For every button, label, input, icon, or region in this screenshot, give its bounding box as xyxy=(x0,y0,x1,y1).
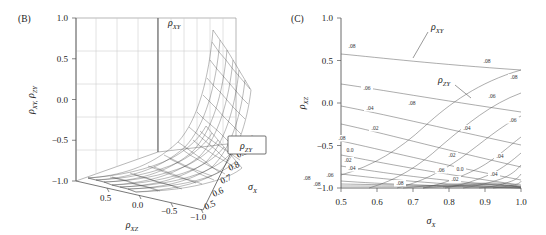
contour-value-label: .06 xyxy=(510,117,517,123)
contour-value-label: .08 xyxy=(314,181,321,187)
svg-text:ρXY, ρZY: ρXY, ρZY xyxy=(25,85,38,115)
panel-b-ytick-1: 0.5 xyxy=(57,54,69,64)
panel-b-canvas: (B) xyxy=(0,0,273,235)
contour-value-label: .06 xyxy=(327,172,334,178)
panel-b-xtick-0: 0.5 xyxy=(100,193,112,203)
panel-b-ztick-1: 0.6 xyxy=(211,185,226,199)
contour-value-label: .08 xyxy=(511,74,518,80)
panel-c-ylabel-sub: XZ xyxy=(302,96,309,105)
panel-b-ztick-0: 0.5 xyxy=(203,198,218,212)
contour-value-label: .02 xyxy=(345,157,352,163)
figure-root: (B) xyxy=(0,0,546,235)
contour-label-rho-zy: ρZY xyxy=(437,74,451,87)
svg-text:ρXZ: ρXZ xyxy=(296,96,309,110)
panel-b-z-axis-label: σX xyxy=(248,181,258,194)
contour-value-label: .08 xyxy=(409,100,416,106)
panel-b-ytick-0: 1.0 xyxy=(57,13,69,23)
panel-b-xtick-2: −0.5 xyxy=(161,206,178,216)
panel-c-ytick-0: 1.0 xyxy=(322,13,334,23)
contour-value-label: .02 xyxy=(452,176,459,182)
panel-c-tag: (C) xyxy=(291,14,304,25)
contour-value-label: .08 xyxy=(349,43,356,49)
contour-label-rho-zy-leader xyxy=(455,85,471,98)
panel-b-ztick-3: 0.8 xyxy=(227,159,242,173)
back-wall-left xyxy=(76,18,158,181)
panel-b-xtick-3: −1.0 xyxy=(190,212,207,222)
contour-value-label: 0.0 xyxy=(347,147,354,153)
panel-c-xtick-5: 1.0 xyxy=(515,197,527,207)
contour-value-label: .04 xyxy=(497,153,504,159)
contour-label-rho-xy-leader xyxy=(413,32,428,58)
contour-value-label: .06 xyxy=(438,167,445,173)
contour-value-label: .04 xyxy=(367,105,374,111)
contour-value-label: .02 xyxy=(372,125,379,131)
contour-value-label: .04 xyxy=(464,125,471,131)
panel-b-x-axis-label: ρXZ xyxy=(125,219,139,232)
contour-value-label: 0.0 xyxy=(457,166,464,172)
panel-c-x-axis-label: σX xyxy=(427,215,437,228)
panel-c-ytick-2: 0.0 xyxy=(322,98,334,108)
panel-b-ylabel-sub2: ZY xyxy=(31,85,38,94)
panel-b-ytick-4: −1.0 xyxy=(52,176,69,186)
contour-label-rho-xy: ρXY xyxy=(430,21,445,34)
panel-c-xtick-1: 0.6 xyxy=(371,197,383,207)
contour-value-label: .04 xyxy=(349,165,356,171)
panel-c-ytick-1: 0.5 xyxy=(322,56,334,66)
panel-c-xtick-2: 0.7 xyxy=(407,197,419,207)
contour-value-label: .06 xyxy=(489,93,496,99)
contour-value-labels: .08.08.08.06.08.06.04.06.02.04.080.0.02.… xyxy=(301,43,520,188)
contour-value-label: .04 xyxy=(491,171,498,177)
panel-c-canvas: (C) 1.0 0.5 0.0 −0.5 −1.0 xyxy=(273,0,546,235)
surface-label-rho-zy-box: ρZY xyxy=(228,136,266,154)
contour-value-label: .02 xyxy=(449,152,456,158)
panel-b-y-axis-label: ρXY, ρZY xyxy=(25,85,38,115)
panel-b-zlabel-sub: X xyxy=(252,187,258,194)
contour-value-label: .06 xyxy=(364,85,371,91)
panel-c-xlabel-sub: X xyxy=(430,221,436,228)
panel-b-tag: (B) xyxy=(18,14,31,25)
contour-value-label: .08 xyxy=(304,175,311,181)
panel-b-ytick-3: −0.5 xyxy=(52,135,69,145)
panel-b-ytick-2: 0.0 xyxy=(57,95,69,105)
panel-b-ylabel-sub1: XY, xyxy=(31,100,38,110)
panel-c-ytick-3: −0.5 xyxy=(317,141,334,151)
panel-c-xtick-4: 0.9 xyxy=(479,197,491,207)
panel-b-x-axis: 0.5 0.0 −0.5 −1.0 ρXZ xyxy=(100,188,207,232)
panel-b-xlabel-sub: XZ xyxy=(130,225,139,232)
panel-b-y-axis: 1.0 0.5 0.0 −0.5 −1.0 xyxy=(52,13,76,186)
panel-c-xtick-3: 0.8 xyxy=(443,197,455,207)
panel-c: (C) 1.0 0.5 0.0 −0.5 −1.0 xyxy=(273,0,546,235)
contour-family-rho-xy xyxy=(341,54,521,188)
panel-c-y-axis-label: ρXZ xyxy=(296,96,309,110)
panel-b-xtick-1: 0.0 xyxy=(132,200,144,210)
contour-value-label: .08 xyxy=(339,135,346,141)
panel-c-xtick-0: 0.5 xyxy=(335,197,347,207)
contour-value-label: .08 xyxy=(484,58,491,64)
back-wall-right xyxy=(158,18,236,152)
panel-b: (B) xyxy=(0,0,273,235)
contour-value-label: .08 xyxy=(397,180,404,186)
